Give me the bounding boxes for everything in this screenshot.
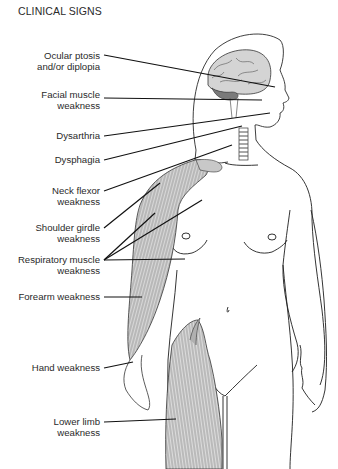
leader-dysphagia xyxy=(104,126,242,160)
body-figure xyxy=(0,0,338,469)
leader-lowerlimb xyxy=(104,419,176,422)
left-leg-muscle xyxy=(166,318,222,469)
trachea-icon xyxy=(239,128,248,160)
leader-respiratory-3 xyxy=(104,259,185,260)
